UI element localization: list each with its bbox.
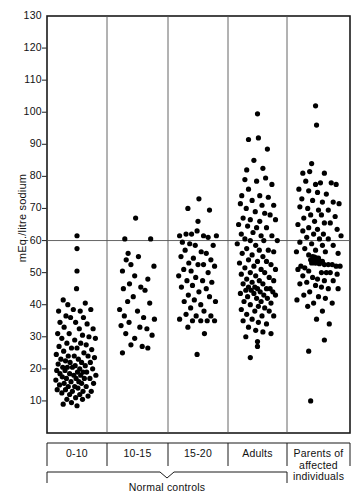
data-point (310, 198, 315, 203)
category-label-line: individuals (287, 471, 350, 483)
data-point (306, 349, 311, 354)
data-point (241, 215, 246, 220)
data-point (64, 341, 69, 346)
data-point (85, 321, 90, 326)
data-point (211, 243, 216, 248)
data-point (239, 307, 244, 312)
data-point (338, 233, 343, 238)
data-point (297, 281, 302, 286)
data-point (335, 272, 340, 277)
data-point (89, 389, 94, 394)
data-point (204, 286, 209, 291)
data-point (85, 394, 90, 399)
data-point (273, 217, 278, 222)
data-point (318, 180, 323, 185)
data-point (145, 345, 150, 350)
category-label-line: 0-10 (47, 448, 107, 460)
data-point (319, 270, 324, 275)
data-point (248, 302, 253, 307)
data-point (151, 264, 156, 269)
data-point (313, 283, 318, 288)
data-point (183, 312, 188, 317)
data-point (243, 288, 248, 293)
data-point (132, 336, 137, 341)
data-point (86, 334, 91, 339)
data-point (257, 193, 262, 198)
dot-plot-figure: mEq./litre sodium 1020304050607080901001… (0, 0, 359, 503)
data-point (61, 402, 66, 407)
data-point (331, 199, 336, 204)
data-point (252, 309, 257, 314)
data-point (262, 270, 267, 275)
data-point (196, 289, 201, 294)
data-point (257, 219, 262, 224)
data-point (314, 317, 319, 322)
data-point (195, 219, 200, 224)
data-point (201, 262, 206, 267)
data-point (259, 313, 264, 318)
data-point (141, 315, 146, 320)
data-point (261, 238, 266, 243)
data-point (132, 273, 137, 278)
data-point (192, 297, 197, 302)
data-point (250, 230, 255, 235)
data-point (310, 275, 315, 280)
data-point (213, 299, 218, 304)
data-point (245, 294, 250, 299)
data-point (80, 397, 85, 402)
data-point (337, 264, 342, 269)
data-point (322, 337, 327, 342)
data-point (238, 291, 243, 296)
data-point (128, 342, 133, 347)
data-point (186, 292, 191, 297)
data-point (336, 251, 341, 256)
data-point (201, 309, 206, 314)
data-point (333, 214, 338, 219)
data-point (313, 248, 318, 253)
data-point (250, 280, 255, 285)
data-point (55, 331, 60, 336)
data-point (62, 381, 67, 386)
data-point (214, 233, 219, 238)
data-point (251, 158, 256, 163)
data-point (87, 376, 92, 381)
data-point (260, 254, 265, 259)
data-point (135, 309, 140, 314)
data-point (190, 283, 195, 288)
data-point (314, 122, 319, 127)
data-point (125, 299, 130, 304)
data-point (208, 257, 213, 262)
data-point (306, 268, 311, 273)
data-point (183, 232, 188, 237)
data-point (177, 317, 182, 322)
data-point (74, 246, 79, 251)
data-point (244, 276, 249, 281)
data-point (236, 222, 241, 227)
data-point (244, 246, 249, 251)
data-point (149, 333, 154, 338)
data-point (273, 292, 278, 297)
data-point (239, 272, 244, 277)
data-point (317, 236, 322, 241)
data-point (74, 345, 79, 350)
data-point (321, 232, 326, 237)
data-point (254, 296, 259, 301)
data-point (323, 249, 328, 254)
data-point (92, 355, 97, 360)
data-point (263, 175, 268, 180)
data-point (68, 315, 73, 320)
data-point (147, 300, 152, 305)
data-point (256, 304, 261, 309)
data-point (265, 147, 270, 152)
data-point (120, 268, 125, 273)
data-point (152, 317, 157, 322)
data-point (262, 211, 267, 216)
data-point (200, 278, 205, 283)
data-point (78, 309, 83, 314)
data-point (248, 270, 253, 275)
data-point (186, 260, 191, 265)
data-point (320, 309, 325, 314)
data-point (183, 248, 188, 253)
data-point (309, 241, 314, 246)
data-point (148, 236, 153, 241)
